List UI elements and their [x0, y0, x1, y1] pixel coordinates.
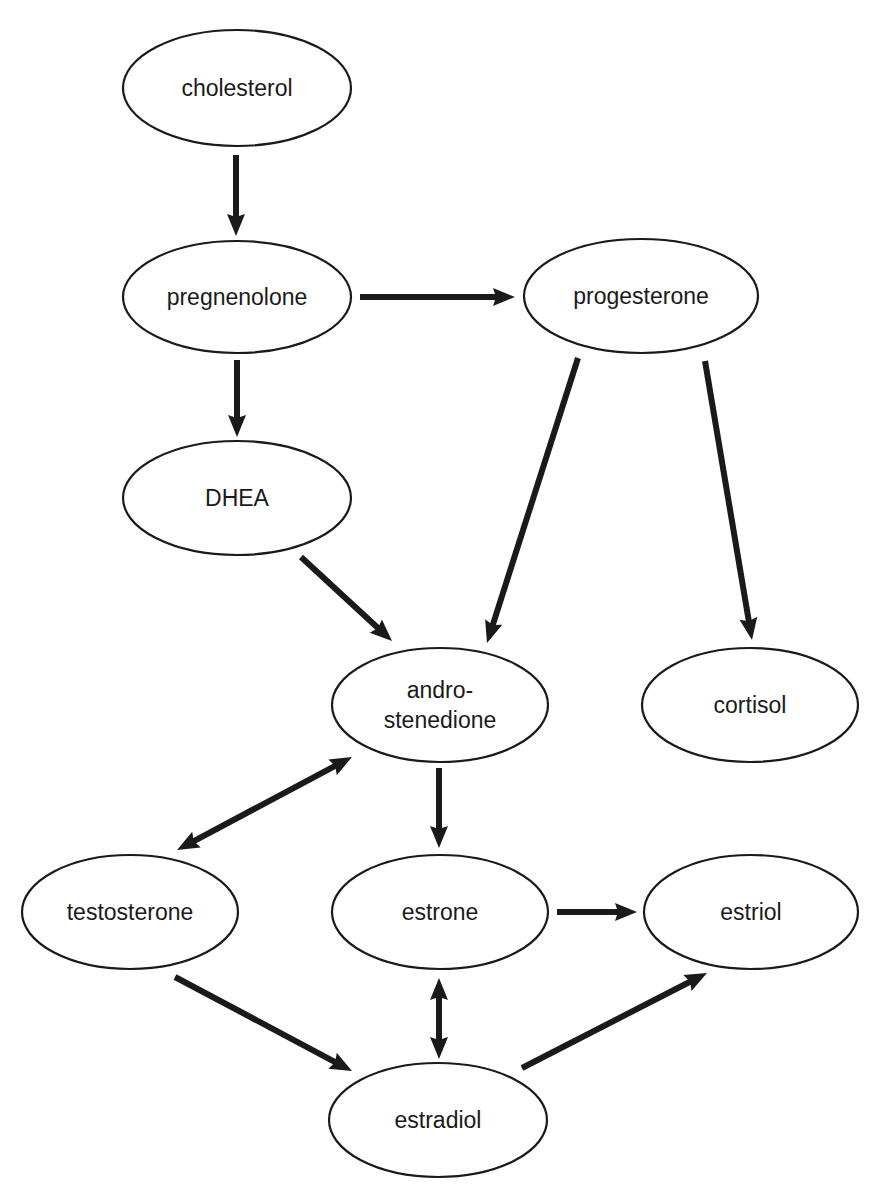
edge-testosterone-to-estradiol	[175, 977, 352, 1071]
arrowhead-icon	[430, 1037, 448, 1059]
arrowhead-icon	[430, 978, 448, 1000]
node-cholesterol: cholesterol	[123, 30, 351, 146]
edge-pregnenolone-to-dhea	[228, 360, 246, 437]
node-label: estriol	[720, 899, 781, 925]
node-label: estrone	[402, 899, 479, 925]
node-dhea: DHEA	[123, 441, 351, 555]
edge-dhea-to-androstenedione	[301, 557, 392, 641]
edge-line	[193, 765, 336, 841]
edge-estrone-to-estradiol	[430, 978, 448, 1059]
node-label: cholesterol	[181, 75, 292, 101]
node-label: cortisol	[714, 692, 787, 718]
edge-line	[492, 358, 578, 626]
node-progesterone: progesterone	[524, 239, 758, 353]
edge-pregnenolone-to-progesterone	[360, 288, 515, 306]
edge-line	[175, 977, 336, 1063]
node-estradiol: estradiol	[329, 1063, 547, 1177]
edge-androstenedione-to-estrone	[430, 768, 448, 848]
node-label: estradiol	[395, 1107, 482, 1133]
edge-line	[522, 981, 691, 1068]
edge-line	[301, 557, 379, 629]
edge-estrone-to-estriol	[557, 903, 637, 921]
node-label: pregnenolone	[167, 284, 308, 310]
node-estrone: estrone	[332, 855, 548, 969]
arrowhead-icon	[615, 903, 637, 921]
arrowhead-icon	[493, 288, 515, 306]
node-label: stenedione	[384, 707, 497, 733]
node-androstenedione: andro-stenedione	[332, 648, 548, 762]
node-label: DHEA	[205, 485, 270, 511]
node-estriol: estriol	[644, 855, 858, 969]
node-ellipse	[332, 648, 548, 762]
arrowhead-icon	[430, 826, 448, 848]
steroid-hormone-pathway-diagram: cholesterolpregnenoloneprogesteroneDHEAa…	[0, 0, 887, 1199]
node-label: andro-	[407, 677, 473, 703]
edge-progesterone-to-androstenedione	[485, 358, 578, 643]
node-label: testosterone	[67, 899, 194, 925]
edge-line	[705, 361, 749, 622]
node-testosterone: testosterone	[22, 855, 238, 969]
node-pregnenolone: pregnenolone	[123, 241, 351, 353]
arrowhead-icon	[227, 214, 245, 236]
edge-androstenedione-to-testosterone	[177, 757, 352, 850]
edge-cholesterol-to-pregnenolone	[227, 155, 245, 236]
edge-estradiol-to-estriol	[522, 973, 707, 1068]
arrowhead-icon	[228, 415, 246, 437]
node-cortisol: cortisol	[642, 648, 858, 762]
node-label: progesterone	[573, 283, 709, 309]
edge-progesterone-to-cortisol	[705, 361, 757, 640]
